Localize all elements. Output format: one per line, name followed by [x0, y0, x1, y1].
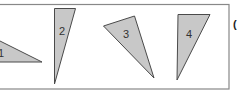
triangle-1: 1: [0, 38, 42, 62]
trailing-mark: (: [233, 18, 237, 30]
triangle-3: 3: [104, 16, 155, 78]
triangle-4-label: 4: [186, 28, 192, 40]
triangle-4-shape: [177, 15, 210, 81]
triangle-1-shape: [0, 38, 42, 62]
triangle-2: 2: [55, 9, 76, 85]
triangle-3-shape: [104, 16, 155, 78]
triangle-2-label: 2: [59, 25, 65, 37]
triangle-3-label: 3: [123, 28, 129, 40]
triangle-2-shape: [55, 9, 76, 85]
triangles-figure: 1 2 3 4 (: [0, 0, 237, 93]
triangle-1-label: 1: [0, 47, 4, 59]
triangle-4: 4: [177, 15, 210, 81]
